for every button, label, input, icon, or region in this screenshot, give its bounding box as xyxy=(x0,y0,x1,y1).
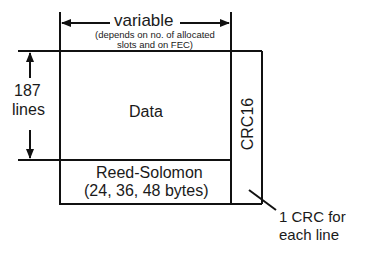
height-label-unit: lines xyxy=(12,101,45,119)
width-note-line2: slots and on FEC) xyxy=(117,39,193,50)
height-label-number: 187 xyxy=(14,82,41,100)
crc-block-label: CRC16 xyxy=(239,96,257,152)
rs-block-line2: (24, 36, 48 bytes) xyxy=(84,182,209,200)
crc-note-line1: 1 CRC for xyxy=(279,208,346,225)
rs-block-line1: Reed-Solomon xyxy=(96,164,203,182)
data-block-label: Data xyxy=(129,103,163,121)
crc-note-line2: each line xyxy=(279,226,339,243)
width-label: variable xyxy=(114,11,174,31)
